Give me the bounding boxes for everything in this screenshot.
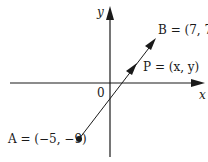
y-axis-label: y: [97, 6, 104, 18]
segment-ab: [79, 44, 152, 139]
origin-label: 0: [97, 87, 105, 99]
x-axis-arrowhead-icon: [191, 79, 205, 87]
point-p-label: P = (x, y): [143, 61, 199, 73]
y-axis-arrowhead-icon: [106, 6, 114, 20]
point-b-label: B = (7, 7): [158, 24, 208, 36]
x-axis-label: x: [199, 89, 206, 101]
b-arrowhead-icon: [145, 38, 156, 50]
point-a-label: A = (−5, −9): [8, 133, 87, 145]
p-arrowhead-icon: [126, 63, 137, 75]
